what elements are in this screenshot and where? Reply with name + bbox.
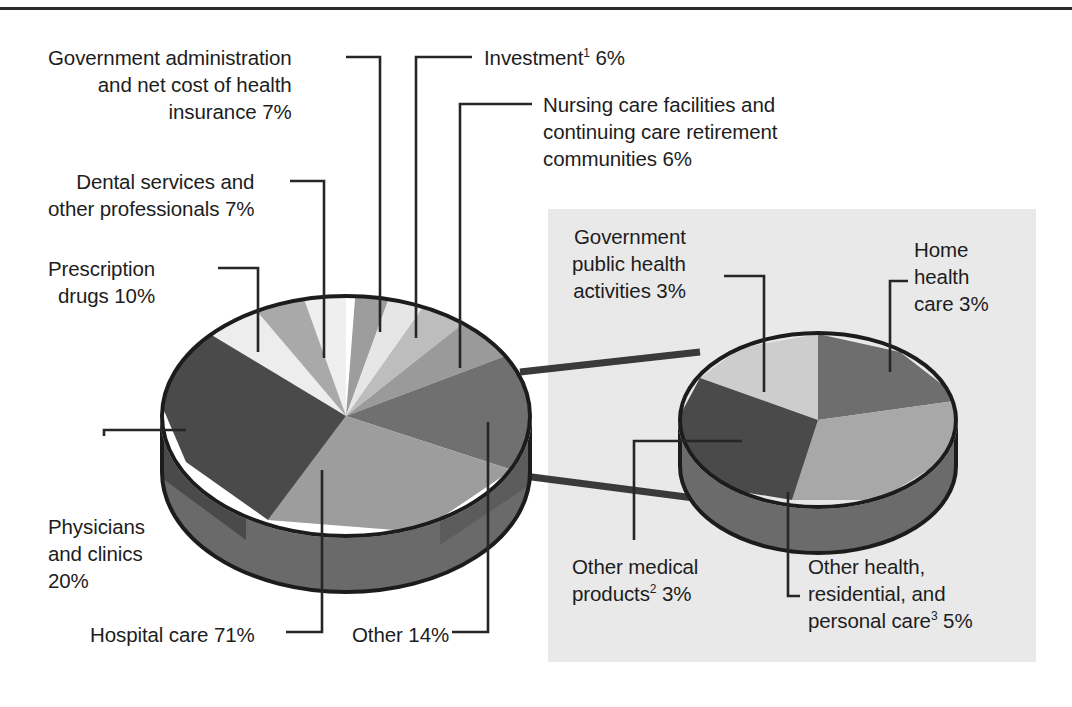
label-investment-text: Investment	[484, 46, 583, 69]
leader-gov-admin	[346, 57, 380, 332]
label-investment: Investment1 6%	[484, 44, 625, 71]
label-other: Other 14%	[352, 621, 449, 648]
label-investment-footnote: 1	[583, 46, 590, 60]
label-government-public-health: Government public health activities 3%	[572, 223, 686, 304]
main-pie-slices	[162, 286, 534, 532]
label-other-health-residential-personal-care: Other health, residential, and personal …	[808, 553, 973, 634]
leader-investment	[416, 57, 472, 338]
health-spending-pie-figure: Government administration and net cost o…	[0, 0, 1072, 707]
pie-connector-lines	[520, 352, 700, 498]
main-pie	[162, 286, 534, 592]
inset-pie	[672, 333, 962, 553]
label-government-administration: Government administration and net cost o…	[48, 44, 292, 125]
label-other-medical-products: Other medical products2 3%	[572, 553, 698, 607]
label-other-medical-value: 3%	[656, 582, 691, 605]
label-dental-services: Dental services and other professionals …	[48, 168, 254, 222]
label-other-health-text: Other health, residential, and personal …	[808, 555, 945, 632]
label-home-health-care: Home health care 3%	[914, 236, 989, 317]
label-nursing-care-facilities: Nursing care facilities and continuing c…	[543, 91, 777, 172]
label-prescription-drugs: Prescription drugs 10%	[48, 255, 155, 309]
label-physicians-and-clinics: Physicians and clinics 20%	[48, 513, 145, 594]
label-other-health-footnote: 3	[931, 609, 938, 623]
label-hospital-care: Hospital care 71%	[90, 621, 255, 648]
label-other-health-value: 5%	[938, 609, 973, 632]
label-investment-value: 6%	[590, 46, 625, 69]
